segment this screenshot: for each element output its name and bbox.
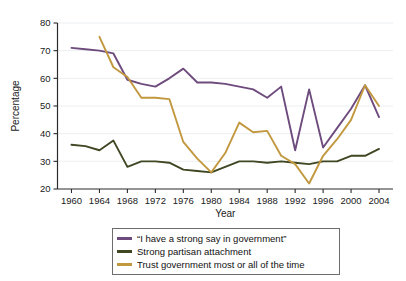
y-axis-title: Percentage [10,80,21,132]
svg-text:60: 60 [40,73,51,84]
svg-text:2000: 2000 [340,195,361,206]
legend-item: Trust government most or all of the time [117,258,334,271]
svg-text:1996: 1996 [313,195,334,206]
svg-text:30: 30 [40,156,51,167]
svg-text:2004: 2004 [368,195,389,206]
svg-text:1968: 1968 [117,195,138,206]
x-axis-ticks: 1960196419681972197619801984198819921996… [61,189,390,206]
legend-label-strong-say: “I have a strong say in government” [137,233,286,244]
legend-label-trust: Trust government most or all of the time [137,259,305,270]
chart-figure: 20304050607080 1960196419681972197619801… [0,0,406,281]
y-axis-ticks: 20304050607080 [40,17,58,194]
svg-text:1992: 1992 [285,195,306,206]
svg-text:1976: 1976 [173,195,194,206]
svg-text:1960: 1960 [61,195,82,206]
legend-label-partisan: Strong partisan attachment [137,246,251,257]
svg-text:1988: 1988 [257,195,278,206]
svg-text:70: 70 [40,45,51,56]
legend-item: Strong partisan attachment [117,245,334,258]
legend-swatch-partisan [117,250,132,253]
legend-swatch-strong-say [117,237,132,240]
svg-text:1984: 1984 [229,195,250,206]
legend-item: “I have a strong say in government” [117,232,334,245]
gridlines [58,23,394,161]
x-axis-title: Year [215,208,236,219]
svg-text:1972: 1972 [145,195,166,206]
svg-text:50: 50 [40,100,51,111]
svg-text:1964: 1964 [89,195,110,206]
legend-swatch-trust [117,263,132,266]
svg-text:80: 80 [40,17,51,28]
svg-text:1980: 1980 [201,195,222,206]
svg-text:20: 20 [40,183,51,194]
chart-legend: “I have a strong say in government” Stro… [112,228,340,275]
svg-text:40: 40 [40,128,51,139]
